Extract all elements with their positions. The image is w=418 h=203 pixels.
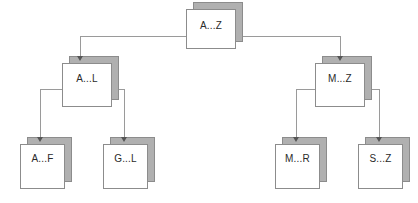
tree-node-s-z[interactable]: S...Z xyxy=(358,144,403,189)
node-face xyxy=(315,63,365,107)
node-face xyxy=(62,63,112,107)
tree-node-label: A...F xyxy=(20,154,65,164)
edge-root-to-mz-arrowhead xyxy=(337,56,343,61)
tree-node-a-f[interactable]: A...F xyxy=(20,144,65,189)
edge-root-to-al-vertical xyxy=(80,36,81,57)
tree-node-label: A...Z xyxy=(186,21,236,31)
edge-mz-to-mr-arrowhead xyxy=(293,137,299,142)
tree-diagram-canvas: A...Z A...L M...Z A...F G...L M...R S...… xyxy=(0,0,418,203)
tree-node-label: A...L xyxy=(62,74,112,84)
tree-node-m-z[interactable]: M...Z xyxy=(315,63,365,107)
edge-al-to-gl-arrowhead xyxy=(121,137,127,142)
tree-node-label: M...R xyxy=(275,154,320,164)
edge-al-to-gl-vertical xyxy=(124,89,125,138)
edge-al-to-af-vertical xyxy=(40,89,41,138)
edge-root-to-al-arrowhead xyxy=(77,56,83,61)
edge-al-to-af-arrowhead xyxy=(37,137,43,142)
tree-node-g-l[interactable]: G...L xyxy=(103,144,148,189)
tree-node-a-l[interactable]: A...L xyxy=(62,63,112,107)
node-face xyxy=(20,144,65,189)
tree-node-m-r[interactable]: M...R xyxy=(275,144,320,189)
edge-root-to-al-horizontal xyxy=(80,36,187,37)
edge-root-to-mz-horizontal xyxy=(236,36,340,37)
node-face xyxy=(358,144,403,189)
edge-al-to-af-horizontal xyxy=(40,89,63,90)
tree-node-root[interactable]: A...Z xyxy=(186,9,236,49)
edge-root-to-mz-vertical xyxy=(340,36,341,57)
node-face xyxy=(103,144,148,189)
tree-node-label: M...Z xyxy=(315,74,365,84)
edge-mz-to-sz-vertical xyxy=(379,89,380,138)
edge-mz-to-mr-vertical xyxy=(296,89,297,138)
tree-node-label: G...L xyxy=(103,154,148,164)
node-face xyxy=(275,144,320,189)
tree-node-label: S...Z xyxy=(358,154,403,164)
edge-mz-to-mr-horizontal xyxy=(296,89,316,90)
edge-mz-to-sz-arrowhead xyxy=(376,137,382,142)
